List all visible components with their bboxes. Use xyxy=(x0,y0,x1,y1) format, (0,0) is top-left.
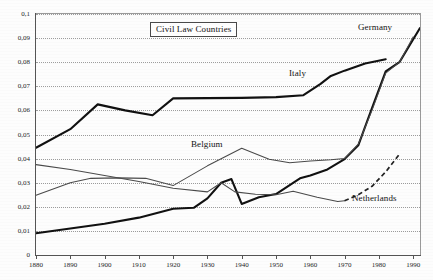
plot-frame-top xyxy=(35,13,421,14)
x-axis-tick-label: 1950 xyxy=(259,261,293,269)
x-axis-tick-mark xyxy=(173,255,174,259)
x-axis-tick-mark xyxy=(345,255,346,259)
y-axis-tick-label: 0,02 xyxy=(2,203,30,211)
plot-frame-right xyxy=(420,13,421,256)
y-axis-tick-label: 0,04 xyxy=(2,155,30,163)
chart-container: 00,010,020,030,040,050,060,070,080,090,1… xyxy=(0,0,433,280)
x-axis-tick-mark xyxy=(70,255,71,259)
x-axis-tick-label: 1930 xyxy=(190,261,224,269)
x-axis-tick-label: 1940 xyxy=(225,261,259,269)
x-axis-tick-label: 1990 xyxy=(396,261,430,269)
y-axis-tick-label: 0,03 xyxy=(2,179,30,187)
y-axis-line xyxy=(35,13,36,256)
series-layer xyxy=(36,14,420,255)
x-axis-tick-mark xyxy=(413,255,414,259)
series-label-belgium: Belgium xyxy=(191,139,223,149)
y-axis-tick-label: 0,1 xyxy=(2,10,30,18)
series-line-netherlands xyxy=(36,165,345,202)
x-axis-tick-label: 1900 xyxy=(88,261,122,269)
x-axis-tick-mark xyxy=(139,255,140,259)
x-axis-tick-label: 1980 xyxy=(362,261,396,269)
y-axis-tick-label: 0,01 xyxy=(2,227,30,235)
x-axis-tick-label: 1960 xyxy=(293,261,327,269)
y-axis-tick-label: 0,09 xyxy=(2,34,30,42)
x-axis-line xyxy=(35,255,421,256)
y-axis-tick-label: 0,06 xyxy=(2,106,30,114)
series-line-italy xyxy=(36,59,386,147)
x-axis-tick-mark xyxy=(207,255,208,259)
plot-area xyxy=(36,14,420,255)
y-axis-tick-label: 0,07 xyxy=(2,82,30,90)
series-label-italy: Italy xyxy=(289,68,306,78)
x-axis-tick-label: 1890 xyxy=(53,261,87,269)
x-axis-tick-label: 1920 xyxy=(156,261,190,269)
y-axis-tick-label: 0,05 xyxy=(2,131,30,139)
chart-title-box: Civil Law Countries xyxy=(150,22,237,37)
y-axis-tick-label: 0 xyxy=(2,251,30,259)
x-axis-tick-label: 1880 xyxy=(19,261,53,269)
series-label-germany: Germany xyxy=(358,22,392,32)
x-axis-tick-mark xyxy=(276,255,277,259)
x-axis-tick-mark xyxy=(242,255,243,259)
x-axis-tick-mark xyxy=(36,255,37,259)
x-axis-tick-mark xyxy=(310,255,311,259)
series-line-belgium xyxy=(36,37,413,195)
x-axis-tick-mark xyxy=(105,255,106,259)
x-axis-tick-mark xyxy=(379,255,380,259)
y-axis-tick-label: 0,08 xyxy=(2,58,30,66)
x-axis-tick-label: 1970 xyxy=(328,261,362,269)
x-axis-tick-label: 1910 xyxy=(122,261,156,269)
series-label-netherlands: Netherlands xyxy=(352,193,397,203)
